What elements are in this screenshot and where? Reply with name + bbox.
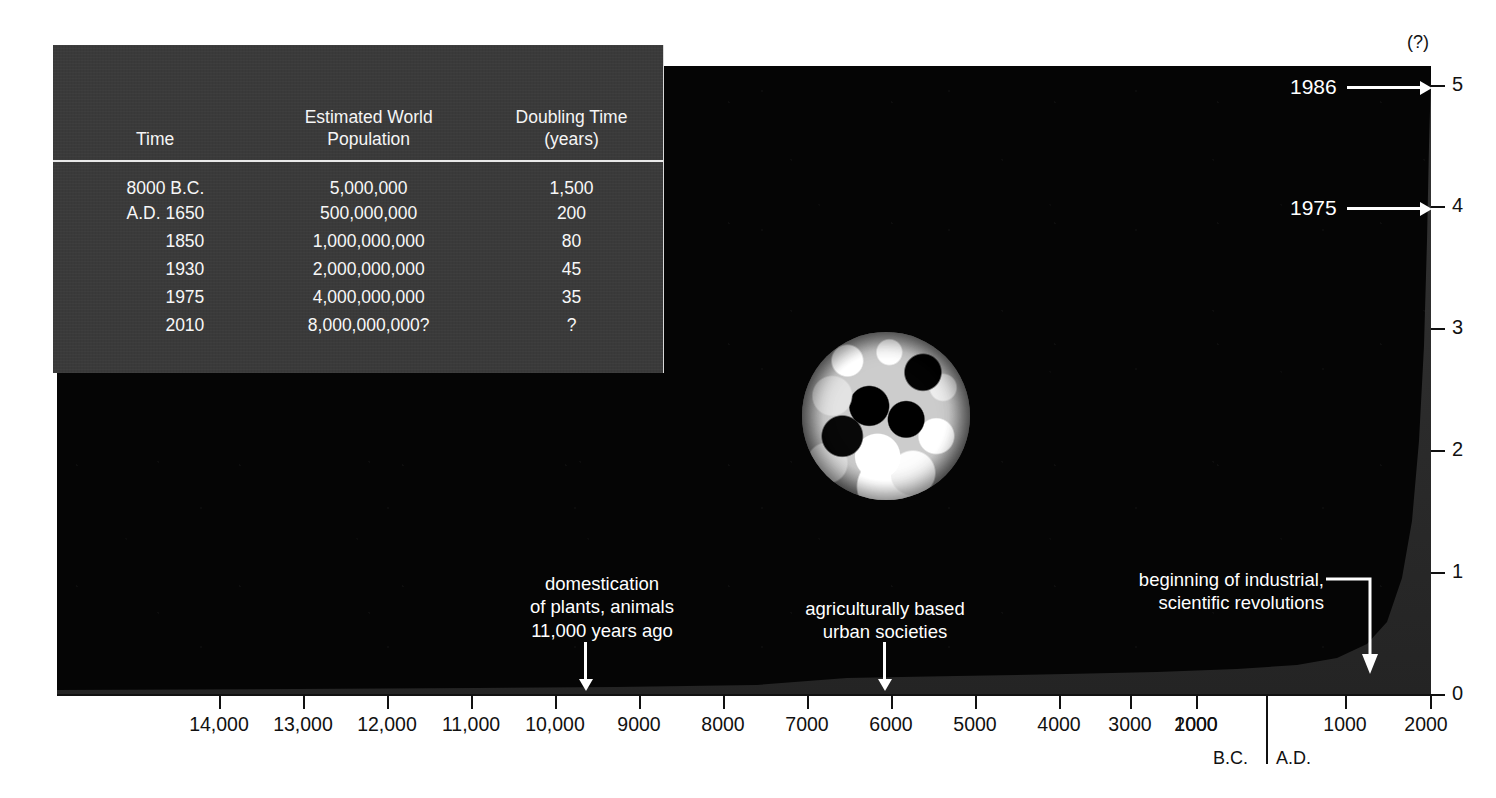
x-tick-7000bc: [807, 696, 809, 709]
table-row: 1850 1,000,000,000 80: [53, 227, 663, 255]
era-label-bc: B.C.: [1213, 748, 1248, 769]
x-tick-1000ad: [1345, 696, 1347, 709]
x-tick-10000bc: [555, 696, 557, 709]
callout-1986-arrow: [1347, 86, 1421, 89]
annotation-industrial-revolution-arrow: [1326, 570, 1396, 680]
y-label-2: 2: [1452, 438, 1463, 461]
y-axis-line: [1431, 66, 1433, 695]
x-label-3000bc: 3000: [1108, 713, 1151, 736]
y-tick-3: [1431, 328, 1445, 330]
x-label-4000bc: 4000: [1037, 713, 1080, 736]
x-tick-2000ad: [1430, 696, 1432, 709]
annotation-urban-societies: agriculturally based urban societies: [776, 597, 994, 644]
cell-population: 2,000,000,000: [257, 255, 480, 283]
x-label-1000ad: 1000: [1323, 713, 1366, 736]
annotation-domestication-arrow: [584, 642, 587, 680]
callout-1986-label: 1986: [1290, 75, 1337, 99]
x-label-14000bc: 14,000: [189, 713, 249, 736]
annotation-urban-societies-arrow: [883, 642, 886, 680]
cell-population: 5,000,000: [257, 160, 480, 199]
x-label-6000bc: 6000: [869, 713, 912, 736]
column-header-population: Estimated World Population: [257, 45, 480, 160]
cell-population: 1,000,000,000: [257, 227, 480, 255]
table-row: 2010 8,000,000,000? ?: [53, 311, 663, 339]
y-label-5: 5: [1452, 73, 1463, 96]
x-tick-9000bc: [639, 696, 641, 709]
earth-globe-image: [802, 332, 970, 500]
y-tick-5: [1431, 85, 1445, 87]
cell-doubling: 80: [480, 227, 663, 255]
table-row: A.D. 1650 500,000,000 200: [53, 199, 663, 227]
callout-1975-arrow: [1347, 207, 1421, 210]
table-row: 1975 4,000,000,000 35: [53, 283, 663, 311]
table-header-rule: [53, 160, 663, 162]
x-tick-5000bc: [975, 696, 977, 709]
x-tick-1000bc: [1266, 696, 1268, 709]
x-label-10000bc: 10,000: [525, 713, 585, 736]
table-header-row: Time Estimated World Population Doubling…: [53, 45, 663, 160]
earth-photo: [802, 332, 970, 500]
x-label-8000bc: 8000: [701, 713, 744, 736]
y-tick-1: [1431, 572, 1445, 574]
x-label-13000bc: 13,000: [273, 713, 333, 736]
table-row: 1930 2,000,000,000 45: [53, 255, 663, 283]
cell-time: 1930: [53, 255, 257, 283]
y-label-3: 3: [1452, 316, 1463, 339]
column-header-time-label: Time: [53, 128, 257, 160]
column-header-doubling-time: Doubling Time (years): [480, 45, 663, 160]
y-tick-2: [1431, 450, 1445, 452]
x-axis-line: [57, 694, 1433, 696]
x-tick-4000bc: [1059, 696, 1061, 709]
x-tick-6000bc: [891, 696, 893, 709]
table-body: 8000 B.C. 5,000,000 1,500 A.D. 1650 500,…: [53, 160, 663, 339]
y-tick-4: [1431, 206, 1445, 208]
cell-doubling: 1,500: [480, 160, 663, 199]
y-label-4: 4: [1452, 194, 1463, 217]
cell-population: 8,000,000,000?: [257, 311, 480, 339]
x-tick-13000bc: [303, 696, 305, 709]
x-tick-12000bc: [387, 696, 389, 709]
cell-population: 4,000,000,000: [257, 283, 480, 311]
x-label-11000bc: 11,000: [442, 713, 500, 736]
x-tick-8000bc: [723, 696, 725, 709]
population-growth-figure: domestication of plants, animals 11,000 …: [0, 0, 1496, 798]
cell-population: 500,000,000: [257, 199, 480, 227]
x-label-2000ad: 2000: [1404, 713, 1447, 736]
table-row: 8000 B.C. 5,000,000 1,500: [53, 160, 663, 199]
y-label-1: 1: [1452, 560, 1463, 583]
x-tick-14000bc: [219, 696, 221, 709]
cell-doubling: 45: [480, 255, 663, 283]
x-label-12000bc: 12,000: [357, 713, 417, 736]
x-tick-11000bc: [471, 696, 473, 709]
cell-doubling: ?: [480, 311, 663, 339]
y-tick-0: [1431, 694, 1445, 696]
x-label-5000bc: 5000: [953, 713, 996, 736]
column-header-time: Time: [53, 45, 257, 160]
annotation-industrial-revolution: beginning of industrial, scientific revo…: [1108, 568, 1324, 615]
annotation-domestication: domestication of plants, animals 11,000 …: [494, 572, 710, 642]
cell-doubling: 200: [480, 199, 663, 227]
column-header-doubling-time-label: Doubling Time (years): [480, 106, 663, 161]
cell-time: 1850: [53, 227, 257, 255]
x-label-1000bc: 1000: [1174, 713, 1217, 736]
cell-doubling: 35: [480, 283, 663, 311]
population-data-table-panel: Time Estimated World Population Doubling…: [53, 45, 664, 373]
y-label-0: 0: [1452, 682, 1463, 705]
x-tick-3000bc: [1130, 696, 1132, 709]
x-label-7000bc: 7000: [785, 713, 828, 736]
column-header-population-label: Estimated World Population: [257, 106, 480, 161]
x-tick-2000bc: [1196, 696, 1198, 709]
x-label-9000bc: 9000: [617, 713, 660, 736]
cell-time: 2010: [53, 311, 257, 339]
cell-time: A.D. 1650: [53, 199, 257, 227]
era-label-ad: A.D.: [1276, 748, 1311, 769]
cell-time: 1975: [53, 283, 257, 311]
callout-1975-label: 1975: [1290, 196, 1337, 220]
cell-time: 8000 B.C.: [53, 160, 257, 199]
population-data-table: Time Estimated World Population Doubling…: [53, 45, 663, 339]
y-axis-uncertainty-note: (?): [1407, 32, 1429, 53]
